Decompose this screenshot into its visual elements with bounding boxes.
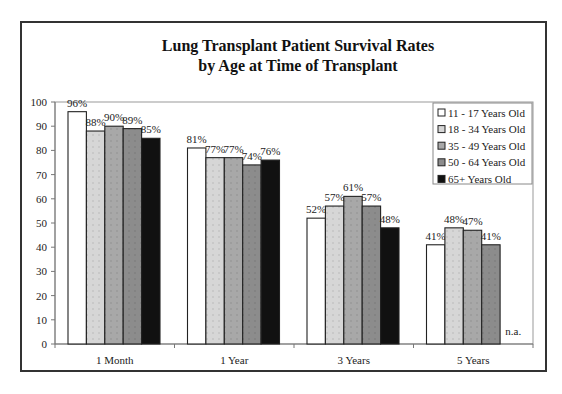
legend-label: 18 - 34 Years Old (448, 123, 526, 135)
data-label: 48% (380, 213, 400, 225)
y-tick-label: 60 (36, 193, 48, 205)
bar-texture (463, 230, 481, 344)
bar-texture (105, 126, 123, 344)
bar-texture (482, 245, 500, 344)
y-tick-label: 90 (36, 120, 48, 132)
bar-texture (325, 206, 343, 344)
bar (427, 245, 445, 344)
data-label: 81% (187, 133, 207, 145)
bar-texture (445, 228, 463, 344)
bar (261, 160, 279, 344)
legend-label: 11 - 17 Years Old (448, 107, 525, 119)
chart-title: Lung Transplant Patient Survival Rates (162, 37, 434, 55)
bar-texture (86, 131, 104, 344)
y-tick-label: 50 (36, 217, 48, 229)
bar (188, 148, 206, 344)
data-label: 76% (260, 145, 280, 157)
y-tick-label: 100 (31, 96, 48, 108)
x-category-label: 1 Month (96, 354, 134, 366)
legend: 11 - 17 Years Old18 - 34 Years Old35 - 4… (433, 103, 532, 185)
data-label: 52% (306, 203, 326, 215)
data-label: 41% (426, 230, 446, 242)
legend-label: 35 - 49 Years Old (448, 140, 526, 152)
x-category-label: 5 Years (457, 354, 489, 366)
bar (307, 218, 325, 344)
data-label: 57% (361, 191, 381, 203)
bar-chart: Lung Transplant Patient Survival Rates b… (0, 0, 562, 394)
y-tick-label: 0 (42, 338, 48, 350)
data-label: 41% (481, 230, 501, 242)
y-tick-label: 10 (36, 314, 48, 326)
legend-swatch (438, 175, 445, 182)
bar-texture (243, 165, 261, 344)
data-label: 85% (141, 123, 161, 135)
bar-texture (123, 129, 141, 344)
data-label: 77% (223, 143, 243, 155)
data-label: 47% (462, 215, 482, 227)
bar (142, 138, 160, 344)
chart-subtitle: by Age at Time of Transplant (198, 57, 398, 75)
data-label: 74% (242, 150, 262, 162)
legend-swatch (438, 159, 445, 166)
bar-texture (206, 158, 224, 344)
bar-texture (224, 158, 242, 344)
legend-swatch (438, 109, 445, 116)
y-tick-label: 30 (36, 265, 48, 277)
bar (68, 112, 86, 344)
y-tick-label: 80 (36, 144, 48, 156)
data-label: 61% (343, 181, 363, 193)
y-tick-label: 20 (36, 290, 48, 302)
x-category-label: 3 Years (338, 354, 370, 366)
y-tick-label: 40 (36, 241, 48, 253)
x-category-label: 1 Year (220, 354, 248, 366)
data-label: 48% (444, 213, 464, 225)
bar (381, 228, 399, 344)
bar-texture (362, 206, 380, 344)
bar-texture (344, 196, 362, 344)
legend-label: 65+ Years Old (448, 173, 512, 185)
na-annotation: n.a. (505, 325, 521, 337)
data-label: 88% (86, 116, 106, 128)
y-tick-label: 70 (36, 169, 48, 181)
legend-label: 50 - 64 Years Old (448, 156, 526, 168)
data-label: 89% (122, 114, 142, 126)
data-label: 77% (205, 143, 225, 155)
data-label: 90% (104, 111, 124, 123)
data-label: 96% (67, 97, 87, 109)
legend-swatch (438, 142, 445, 149)
legend-swatch (438, 126, 445, 133)
data-label: 57% (325, 191, 345, 203)
